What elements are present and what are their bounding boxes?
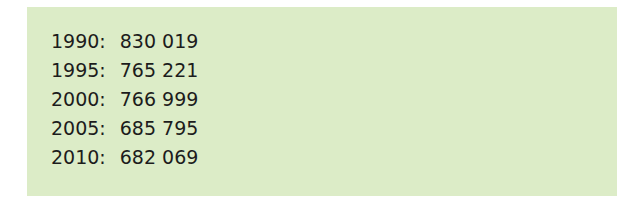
value-label: 830 019	[120, 30, 199, 52]
value-label: 685 795	[120, 117, 199, 139]
year-value-list: 1990:830 019 1995:765 221 2000:766 999 2…	[51, 27, 198, 172]
list-item: 2005:685 795	[51, 114, 198, 143]
list-item: 1990:830 019	[51, 27, 198, 56]
data-panel: 1990:830 019 1995:765 221 2000:766 999 2…	[27, 7, 617, 196]
value-label: 765 221	[120, 59, 199, 81]
year-label: 1995:	[51, 56, 106, 85]
list-item: 2000:766 999	[51, 85, 198, 114]
value-label: 766 999	[120, 88, 199, 110]
year-label: 1990:	[51, 27, 106, 56]
value-label: 682 069	[120, 146, 199, 168]
year-label: 2010:	[51, 143, 106, 172]
year-label: 2000:	[51, 85, 106, 114]
list-item: 1995:765 221	[51, 56, 198, 85]
list-item: 2010:682 069	[51, 143, 198, 172]
year-label: 2005:	[51, 114, 106, 143]
